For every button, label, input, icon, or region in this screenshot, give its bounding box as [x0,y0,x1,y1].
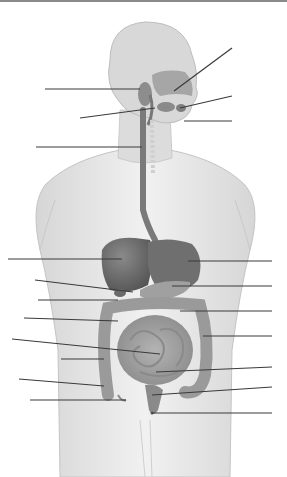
tongue [157,102,175,112]
digestive-system-diagram [0,0,287,477]
nasal-cavity [152,71,193,96]
small-intestine [117,315,193,385]
parotid-gland [138,82,152,106]
liver [102,238,152,292]
